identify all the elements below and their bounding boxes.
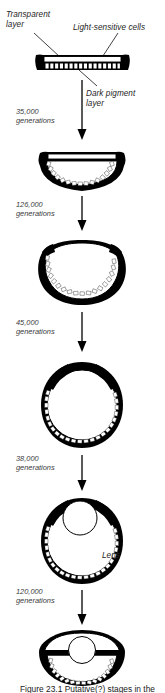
label-transparent-layer-line1: Transparent bbox=[6, 10, 50, 19]
stage-pinhole bbox=[41, 362, 123, 448]
label-transparent-layer-line2: layer bbox=[6, 20, 24, 29]
generations-step-3-unit: generations bbox=[16, 327, 55, 336]
generations-step-1-number: 35,000 bbox=[16, 107, 39, 116]
label-light-sensitive-cells-line1: Light-sensitive cells bbox=[73, 23, 145, 32]
label-transparent-layer: Transparent layer bbox=[6, 10, 50, 29]
stage-shallow-cup bbox=[39, 152, 126, 191]
stage-deep-cup bbox=[38, 240, 126, 305]
label-lens: Lens bbox=[102, 551, 120, 561]
generations-step-3: 45,000 generations bbox=[16, 318, 55, 336]
generations-step-5: 120,000 generations bbox=[16, 587, 55, 605]
arrow-step-5 bbox=[78, 590, 87, 625]
generations-step-4-unit: generations bbox=[16, 463, 55, 472]
generations-step-3-number: 45,000 bbox=[16, 318, 39, 327]
generations-step-2-unit: generations bbox=[16, 209, 55, 218]
generations-step-5-unit: generations bbox=[16, 596, 55, 605]
label-dark-pigment-layer-line1: Dark pigment bbox=[86, 89, 135, 98]
generations-step-1-unit: generations bbox=[16, 116, 55, 125]
generations-step-5-number: 120,000 bbox=[16, 587, 43, 596]
arrow-step-3 bbox=[78, 312, 87, 352]
arrow-step-2 bbox=[78, 196, 87, 231]
label-light-sensitive-cells: Light-sensitive cells bbox=[73, 23, 145, 33]
generations-step-2-number: 126,000 bbox=[16, 200, 43, 209]
generations-step-1: 35,000 generations bbox=[16, 107, 55, 125]
generations-step-2: 126,000 generations bbox=[16, 200, 55, 218]
generations-step-4: 38,000 generations bbox=[16, 454, 55, 472]
arrow-step-4 bbox=[78, 455, 87, 491]
label-lens-line1: Lens bbox=[102, 551, 120, 560]
label-dark-pigment-layer: Dark pigment layer bbox=[86, 89, 135, 108]
leader-transparent-layer bbox=[34, 33, 60, 57]
figure-caption: Figure 23.1 Putative(?) stages in the ev… bbox=[10, 684, 165, 693]
label-dark-pigment-layer-line2: layer bbox=[86, 99, 104, 108]
stage-complex-eye bbox=[39, 630, 125, 686]
stage-flat-eyespot bbox=[35, 55, 130, 71]
generations-step-4-number: 38,000 bbox=[16, 454, 39, 463]
stage-lens-forming bbox=[41, 498, 123, 584]
